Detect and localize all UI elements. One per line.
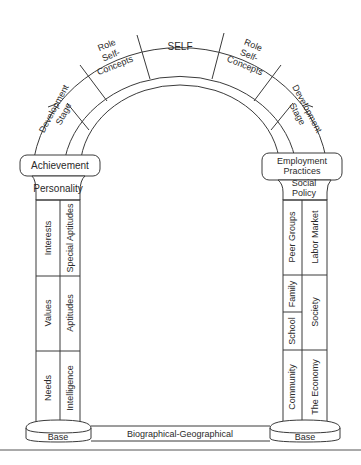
right-inner-community: Community: [287, 364, 297, 410]
right-capital-label-1: Employment: [277, 156, 328, 166]
left-inner-interests: Interests: [43, 220, 53, 255]
keystone-label: SELF: [167, 41, 192, 52]
right-capital-label-2: Practices: [283, 166, 321, 176]
right-inner-school: School: [287, 317, 297, 345]
left-capital-label: Achievement: [31, 160, 89, 171]
left-base-label: Base: [48, 432, 69, 442]
right-base-label: Base: [295, 432, 316, 442]
right-inner-peer-groups: Peer Groups: [287, 211, 297, 263]
arch: SELF Role Self- Concepts Role Self- Conc…: [34, 33, 326, 158]
left-outer-aptitudes: Aptitudes: [65, 294, 75, 332]
left-outer-special-aptitudes: Special Aptitudes: [65, 203, 75, 273]
arch-outer-edge: [34, 48, 326, 158]
right-neck-label-2: Policy: [292, 188, 317, 198]
foundation: Biographical-Geographical: [91, 426, 270, 441]
right-neck-label-1: Social: [292, 178, 317, 188]
right-outer-labor-market: Labor Market: [310, 210, 320, 264]
left-outer-intelligence: Intelligence: [65, 365, 75, 411]
archway-diagram: SELF Role Self- Concepts Role Self- Conc…: [0, 0, 361, 465]
right-column: Employment Practices Social Policy Peer …: [262, 153, 342, 442]
left-inner-needs: Needs: [43, 374, 53, 401]
left-inner-values: Values: [43, 299, 53, 326]
right-outer-society: Society: [310, 297, 320, 327]
left-column: Achievement Personality Interests Values…: [20, 155, 100, 442]
right-inner-family: Family: [287, 280, 297, 307]
foundation-label: Biographical-Geographical: [127, 429, 233, 439]
arch-middle-edge: [65, 76, 295, 158]
left-neck-label: Personality: [33, 183, 82, 194]
right-outer-the-economy: The Economy: [310, 359, 320, 415]
